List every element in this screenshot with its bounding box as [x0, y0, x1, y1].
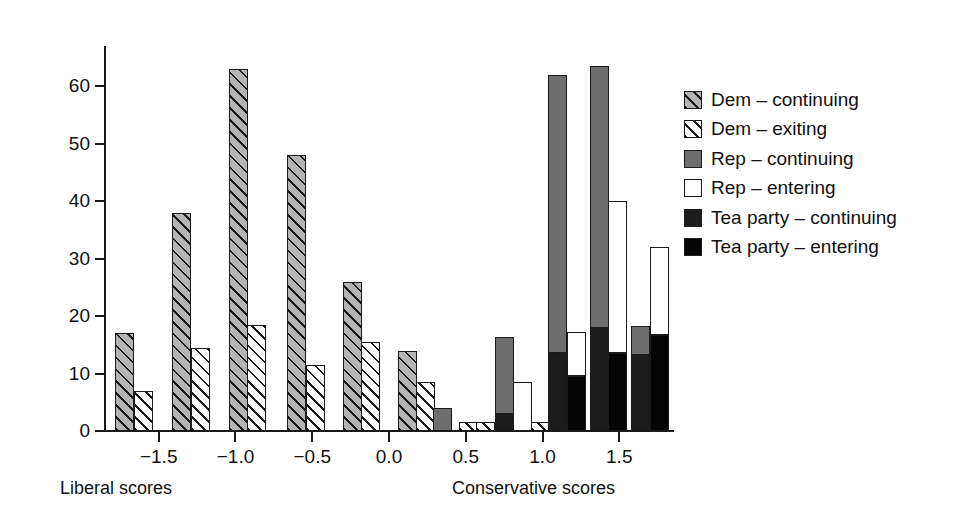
y-tick-label: 30	[38, 249, 90, 268]
bar-dem-cont	[398, 351, 417, 431]
legend-label: Rep – continuing	[711, 148, 854, 170]
legend-label: Dem – exiting	[711, 118, 827, 140]
x-tick-label: 0.0	[354, 446, 424, 468]
legend-label: Dem – continuing	[711, 89, 859, 111]
bar-dem-exit	[361, 342, 380, 431]
x-tick-label: −1.5	[124, 446, 194, 468]
legend-item[interactable]: Rep – entering	[684, 175, 952, 202]
x-tick-label: 1.5	[584, 446, 654, 468]
bar-tea-cont	[590, 328, 609, 431]
y-tick	[95, 430, 104, 432]
bar-tea-cont	[495, 414, 514, 431]
y-tick	[95, 373, 104, 375]
y-tick	[95, 200, 104, 202]
bar-dem-exit	[247, 325, 266, 431]
x-tick	[158, 432, 160, 442]
bar-dem-cont	[115, 333, 134, 431]
y-tick-label: 20	[38, 306, 90, 325]
y-tick-label-text: 50	[44, 134, 90, 153]
chart-legend: Dem – continuingDem – exitingRep – conti…	[684, 86, 952, 263]
x-tick	[465, 432, 467, 442]
bar-tea-ent	[608, 353, 627, 431]
y-tick	[95, 85, 104, 87]
y-tick-label: 60	[38, 76, 90, 95]
bar-rep-cont	[548, 75, 567, 354]
legend-swatch-icon	[684, 238, 702, 256]
legend-label: Tea party – entering	[711, 236, 879, 258]
legend-label: Rep – entering	[711, 177, 836, 199]
x-tick-label: −1.0	[200, 446, 270, 468]
y-tick-label: 10	[38, 364, 90, 383]
y-tick	[95, 143, 104, 145]
bar-tea-ent	[650, 335, 669, 431]
x-tick-label: −0.5	[277, 446, 347, 468]
legend-label: Tea party – continuing	[711, 207, 897, 229]
legend-item[interactable]: Dem – exiting	[684, 116, 952, 143]
y-tick-label: 50	[38, 134, 90, 153]
bar-dem-cont	[343, 282, 362, 431]
y-tick-label: 40	[38, 191, 90, 210]
y-tick-label-text: 60	[44, 76, 90, 95]
bar-dem-exit	[191, 348, 210, 431]
bar-tea-cont	[631, 355, 650, 431]
legend-swatch-icon	[684, 179, 702, 197]
bar-rep-cont	[433, 408, 452, 431]
y-axis-line	[104, 46, 106, 431]
x-axis-caption-left: Liberal scores	[60, 478, 172, 498]
chart-figure: 0102030405060 −1.5−1.0−0.50.00.51.01.5 L…	[0, 0, 958, 511]
bar-dem-cont	[229, 69, 248, 431]
x-tick-label: 0.5	[431, 446, 501, 468]
x-tick	[388, 432, 390, 442]
bar-rep-cont	[495, 337, 514, 413]
x-tick-label: 1.0	[508, 446, 578, 468]
bar-dem-exit	[476, 422, 495, 431]
bar-rep-ent	[608, 201, 627, 353]
bar-tea-cont	[548, 353, 567, 431]
bar-dem-exit	[134, 391, 153, 431]
bar-rep-cont	[590, 66, 609, 327]
legend-swatch-icon	[684, 91, 702, 109]
bar-rep-ent	[650, 247, 669, 335]
bar-dem-cont	[172, 213, 191, 431]
x-tick	[234, 432, 236, 442]
legend-item[interactable]: Dem – continuing	[684, 86, 952, 113]
legend-item[interactable]: Rep – continuing	[684, 145, 952, 172]
y-tick-label-text: 10	[44, 364, 90, 383]
bar-dem-cont	[287, 155, 306, 431]
x-axis-caption-right: Conservative scores	[452, 478, 615, 498]
bar-rep-ent	[567, 332, 586, 376]
legend-swatch-icon	[684, 150, 702, 168]
y-tick-label-text: 40	[44, 191, 90, 210]
y-tick-label: 0	[38, 421, 90, 440]
bar-rep-ent	[513, 382, 532, 431]
bar-rep-cont	[631, 326, 650, 354]
bar-dem-exit	[306, 365, 325, 431]
y-tick-label-text: 20	[44, 306, 90, 325]
y-tick-label-text: 30	[44, 249, 90, 268]
bar-tea-ent	[567, 376, 586, 431]
legend-item[interactable]: Tea party – continuing	[684, 204, 952, 231]
x-tick	[618, 432, 620, 442]
legend-item[interactable]: Tea party – entering	[684, 234, 952, 261]
x-tick	[542, 432, 544, 442]
y-tick	[95, 258, 104, 260]
legend-swatch-icon	[684, 209, 702, 227]
legend-swatch-icon	[684, 120, 702, 138]
y-tick-label-text: 0	[44, 421, 90, 440]
x-tick	[311, 432, 313, 442]
y-tick	[95, 315, 104, 317]
